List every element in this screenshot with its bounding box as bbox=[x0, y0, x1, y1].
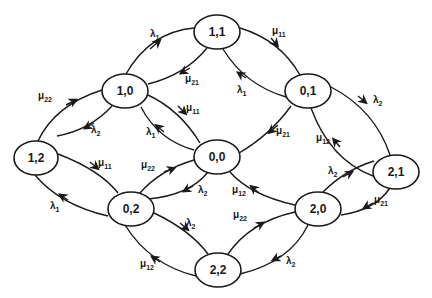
label-mu21-11-10: μ21 bbox=[185, 73, 199, 86]
edge-10-to-00 bbox=[148, 95, 200, 143]
label-mu22-22-20: μ22 bbox=[233, 209, 247, 222]
edge-22-to-02 bbox=[125, 225, 196, 276]
label-lambda2-20-21: λ2 bbox=[328, 165, 338, 178]
node-label: 2,0 bbox=[310, 202, 327, 216]
edge-10-to-11 bbox=[126, 28, 194, 74]
edge-arrow bbox=[90, 162, 96, 167]
edge-arrow bbox=[358, 96, 364, 101]
node-1-2: 1,2 bbox=[14, 141, 58, 175]
node-1-0: 1,0 bbox=[102, 74, 148, 108]
node-label: 1,1 bbox=[209, 25, 226, 39]
node-1-1: 1,1 bbox=[194, 15, 240, 49]
node-label: 0,0 bbox=[209, 150, 226, 164]
label-lambda2-10-12: λ2 bbox=[91, 124, 101, 137]
edge-arrow bbox=[335, 141, 340, 147]
label-mu12-20-00: μ12 bbox=[232, 184, 246, 197]
label-mu12-22-02: μ12 bbox=[140, 258, 154, 271]
label-lambda2-20-22: λ2 bbox=[286, 255, 296, 268]
edge-20-to-22 bbox=[240, 225, 308, 274]
edge-02-to-12 bbox=[35, 175, 108, 216]
edge-12-to-02 bbox=[58, 154, 118, 193]
node-2-0: 2,0 bbox=[295, 192, 341, 226]
edge-10-to-12 bbox=[57, 106, 112, 136]
label-mu11-12-02: μ11 bbox=[98, 157, 112, 170]
label-lambda2-02-22: λ2 bbox=[186, 217, 196, 230]
edge-arrow bbox=[254, 224, 261, 228]
node-0-0: 0,0 bbox=[194, 140, 240, 174]
label-mu11-10-00: μ11 bbox=[186, 102, 200, 115]
label-lambda1-00-10: λ1 bbox=[146, 126, 156, 139]
label-lambda1-01-11: λ1 bbox=[237, 84, 247, 97]
edge-arrow bbox=[150, 42, 158, 49]
edge-20-to-00 bbox=[230, 172, 295, 205]
edge-01-to-11 bbox=[223, 49, 286, 97]
label-mu21-01-00: μ21 bbox=[276, 125, 290, 138]
edge-arrow bbox=[164, 169, 172, 172]
edge-arrow bbox=[178, 106, 184, 112]
label-mu11-11-01: μ11 bbox=[272, 25, 286, 38]
node-0-2: 0,2 bbox=[108, 192, 154, 226]
label-lambda2-00-02: λ2 bbox=[198, 184, 208, 197]
node-label: 0,1 bbox=[300, 84, 317, 98]
label-lambda2-01-21: λ2 bbox=[373, 94, 383, 107]
state-transition-diagram: 1,1 1,0 0,1 1,2 0,0 2,1 0,2 2,0 2,2 λ1 μ… bbox=[0, 0, 432, 298]
node-label: 2,2 bbox=[210, 263, 227, 277]
label-mu22-02-00: μ22 bbox=[141, 159, 155, 172]
label-lambda1-02-12: λ1 bbox=[50, 200, 60, 213]
label-mu21-21-20: μ21 bbox=[374, 194, 388, 207]
node-label: 1,0 bbox=[117, 84, 134, 98]
node-label: 1,2 bbox=[28, 151, 45, 165]
label-mu22-12-10: μ22 bbox=[38, 90, 52, 103]
node-2-1: 2,1 bbox=[373, 155, 419, 189]
edge-arrow bbox=[186, 186, 193, 190]
node-label: 2,1 bbox=[388, 165, 405, 179]
node-2-2: 2,2 bbox=[195, 253, 241, 287]
edge-01-to-00 bbox=[239, 106, 291, 153]
label-lambda1-10-11: λ1 bbox=[150, 28, 160, 41]
edge-02-to-22 bbox=[154, 213, 208, 254]
node-label: 0,2 bbox=[123, 202, 140, 216]
edge-11-to-01 bbox=[240, 28, 300, 75]
node-0-1: 0,1 bbox=[285, 74, 331, 108]
